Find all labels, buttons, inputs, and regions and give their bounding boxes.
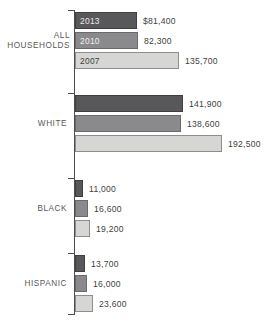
category-label-black: BLACK [37, 204, 67, 214]
bar-value-label: 11,000 [89, 184, 116, 193]
category-label-line: HISPANIC [25, 279, 67, 289]
bar-value-label: 138,600 [187, 119, 220, 128]
bar-value-label: 192,500 [228, 139, 261, 148]
bar-value-label: 82,300 [144, 36, 172, 45]
category-label-hispanic: HISPANIC [25, 279, 67, 289]
bar-hispanic-2013 [75, 255, 85, 272]
bar-row: 138,600 [75, 115, 275, 132]
bar-black-2007 [75, 220, 90, 237]
bar-value-label: 19,200 [96, 224, 124, 233]
bar-row: 23,600 [75, 295, 275, 312]
bar-row: 19,200 [75, 220, 275, 237]
category-label-all-households: ALLHOUSEHOLDS [0, 31, 70, 51]
bar-year-label: 2010 [80, 36, 100, 44]
bar-row: 16,000 [75, 275, 275, 292]
bar-white-2010 [75, 115, 181, 132]
bar-white-2007 [75, 135, 222, 152]
axis-tick [68, 93, 75, 94]
bar-row: 2007135,700 [75, 52, 275, 69]
bar-row: 11,000 [75, 180, 275, 197]
category-label-white: WHITE [38, 119, 67, 129]
bar-row: 201082,300 [75, 32, 275, 49]
bar-group-hispanic: HISPANIC13,70016,00023,600 [0, 255, 275, 312]
bar-chart: ALLHOUSEHOLDS2013$81,400201082,300200713… [0, 0, 275, 326]
bar-black-2010 [75, 200, 88, 217]
axis-tick [68, 314, 75, 315]
bar-all-households-2007: 2007 [75, 52, 179, 69]
bar-black-2013 [75, 180, 83, 197]
category-label-line: BLACK [37, 204, 67, 214]
axis-tick [68, 253, 75, 254]
bar-row: 13,700 [75, 255, 275, 272]
bar-row: 141,900 [75, 95, 275, 112]
bar-value-label: 16,000 [93, 279, 121, 288]
axis-tick [68, 178, 75, 179]
bar-group-all-households: ALLHOUSEHOLDS2013$81,400201082,300200713… [0, 12, 275, 69]
bar-row: 192,500 [75, 135, 275, 152]
category-label-line: ALL [0, 31, 70, 41]
bar-row: 2013$81,400 [75, 12, 275, 29]
category-label-line: HOUSEHOLDS [0, 41, 70, 51]
bar-all-households-2013: 2013 [75, 12, 137, 29]
axis-tick [68, 10, 75, 11]
bar-all-households-2010: 2010 [75, 32, 138, 49]
bar-value-label: 23,600 [99, 299, 127, 308]
bar-row: 16,600 [75, 200, 275, 217]
bar-group-white: WHITE141,900138,600192,500 [0, 95, 275, 152]
bar-hispanic-2007 [75, 295, 93, 312]
category-label-line: WHITE [38, 119, 67, 129]
bar-value-label: 135,700 [185, 56, 218, 65]
bar-hispanic-2010 [75, 275, 87, 292]
bar-group-black: BLACK11,00016,60019,200 [0, 180, 275, 237]
bar-value-label: 13,700 [91, 259, 119, 268]
bar-year-label: 2013 [80, 16, 100, 24]
bar-value-label: $81,400 [143, 16, 176, 25]
bar-value-label: 141,900 [189, 99, 222, 108]
bar-year-label: 2007 [80, 56, 100, 64]
bar-white-2013 [75, 95, 183, 112]
bar-value-label: 16,600 [94, 204, 122, 213]
